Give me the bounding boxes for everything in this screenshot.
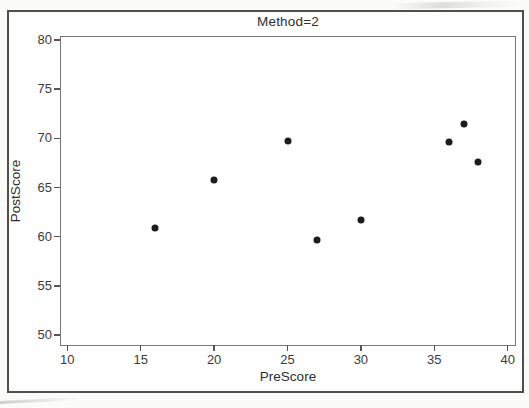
- x-tick-mark: [67, 345, 68, 351]
- x-tick-label: 30: [346, 353, 376, 367]
- x-tick-mark: [140, 345, 141, 351]
- x-tick-label: 10: [52, 353, 82, 367]
- y-tick-label: 50: [18, 328, 52, 342]
- y-tick-mark: [54, 39, 60, 40]
- data-point: [460, 120, 467, 127]
- x-tick-mark: [287, 345, 288, 351]
- x-tick-mark: [507, 345, 508, 351]
- data-point: [445, 139, 452, 146]
- plot-area: [60, 36, 516, 346]
- data-point: [152, 224, 159, 231]
- scan-artifact: [0, 397, 80, 404]
- scan-artifact: [391, 1, 521, 9]
- y-tick-mark: [54, 88, 60, 89]
- y-tick-mark: [54, 138, 60, 139]
- y-tick-mark: [54, 334, 60, 335]
- x-tick-label: 35: [419, 353, 449, 367]
- y-tick-mark: [54, 285, 60, 286]
- y-tick-label: 60: [18, 230, 52, 244]
- y-tick-label: 55: [18, 279, 52, 293]
- y-tick-mark: [54, 187, 60, 188]
- y-tick-label: 70: [18, 131, 52, 145]
- x-tick-label: 20: [199, 353, 229, 367]
- y-tick-mark: [54, 236, 60, 237]
- data-point: [313, 236, 320, 243]
- x-tick-mark: [360, 345, 361, 351]
- x-tick-mark: [213, 345, 214, 351]
- x-tick-label: 40: [493, 353, 523, 367]
- y-tick-label: 75: [18, 82, 52, 96]
- data-point: [284, 138, 291, 145]
- data-point: [357, 217, 364, 224]
- x-tick-label: 25: [273, 353, 303, 367]
- data-point: [211, 176, 218, 183]
- scatter-figure: Method=2 PreScore PostScore 505560657075…: [0, 0, 529, 408]
- y-tick-label: 65: [18, 181, 52, 195]
- y-tick-label: 80: [18, 33, 52, 47]
- x-tick-label: 15: [126, 353, 156, 367]
- x-axis-title: PreScore: [60, 369, 516, 384]
- chart-title: Method=2: [60, 14, 516, 29]
- x-tick-mark: [434, 345, 435, 351]
- data-point: [475, 158, 482, 165]
